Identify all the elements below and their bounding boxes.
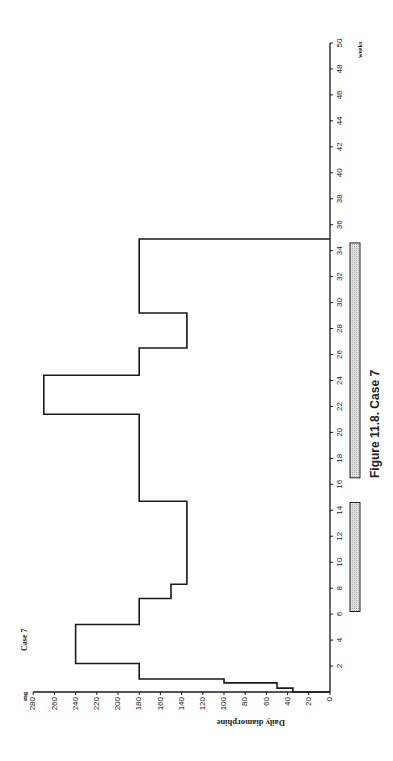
svg-text:120: 120 <box>198 696 207 710</box>
svg-text:20: 20 <box>335 427 344 436</box>
svg-text:36: 36 <box>335 220 344 229</box>
svg-text:280: 280 <box>28 696 37 710</box>
svg-text:50: 50 <box>335 38 344 47</box>
svg-text:8: 8 <box>335 585 344 590</box>
svg-text:80: 80 <box>240 696 249 705</box>
svg-text:42: 42 <box>335 142 344 151</box>
value-axis-label: Daily diamorphine <box>217 718 285 728</box>
svg-text:20: 20 <box>304 696 313 705</box>
diamorphine-step-line <box>44 239 330 692</box>
svg-text:18: 18 <box>335 453 344 462</box>
svg-text:48: 48 <box>335 64 344 73</box>
svg-text:12: 12 <box>335 531 344 540</box>
svg-text:260: 260 <box>50 696 59 710</box>
svg-text:30: 30 <box>335 298 344 307</box>
time-axis <box>330 43 333 692</box>
svg-text:60: 60 <box>262 696 271 705</box>
svg-text:44: 44 <box>335 116 344 125</box>
time-axis-unit: weeks <box>356 41 363 58</box>
value-axis <box>33 692 330 695</box>
svg-text:100: 100 <box>219 696 228 710</box>
svg-text:140: 140 <box>177 696 186 710</box>
tick-labels: 2468101214161820222426283032343638404244… <box>28 38 344 710</box>
figure-caption: Figure 11.8. Case 7 <box>368 370 382 478</box>
svg-text:46: 46 <box>335 90 344 99</box>
svg-text:2: 2 <box>335 663 344 668</box>
svg-text:10: 10 <box>335 557 344 566</box>
svg-text:6: 6 <box>335 611 344 616</box>
treatment-bars <box>350 243 360 612</box>
svg-text:24: 24 <box>335 375 344 384</box>
step-chart: 2468101214161820222426283032343638404244… <box>0 0 393 761</box>
svg-text:22: 22 <box>335 401 344 410</box>
svg-text:16: 16 <box>335 479 344 488</box>
svg-text:32: 32 <box>335 272 344 281</box>
svg-text:200: 200 <box>113 696 122 710</box>
svg-text:14: 14 <box>335 505 344 514</box>
panel-label: Case 7 <box>20 629 29 651</box>
svg-text:180: 180 <box>134 696 143 710</box>
svg-text:4: 4 <box>335 637 344 642</box>
svg-text:160: 160 <box>156 696 165 710</box>
value-axis-unit: mg <box>21 692 29 701</box>
svg-text:40: 40 <box>283 696 292 705</box>
svg-text:34: 34 <box>335 246 344 255</box>
svg-text:38: 38 <box>335 194 344 203</box>
svg-text:240: 240 <box>71 696 80 710</box>
svg-text:0: 0 <box>325 696 334 701</box>
svg-text:220: 220 <box>92 696 101 710</box>
svg-text:40: 40 <box>335 168 344 177</box>
svg-text:26: 26 <box>335 350 344 359</box>
svg-text:28: 28 <box>335 324 344 333</box>
